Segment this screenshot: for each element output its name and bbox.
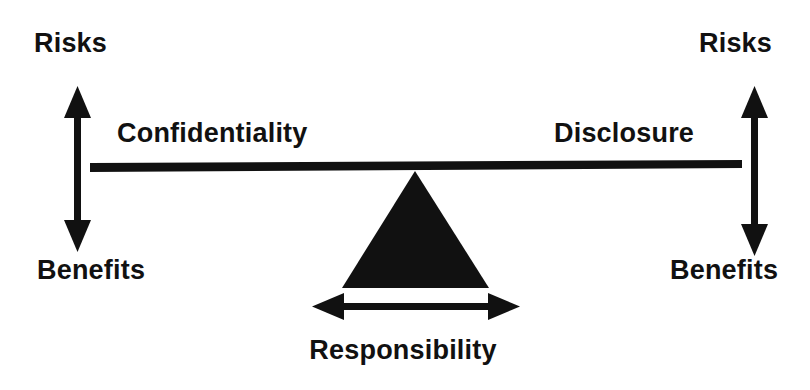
diagram-canvas: Risks Risks Confidentiality Disclosure B…: [0, 0, 810, 390]
balance-beam: [90, 160, 742, 172]
label-confidentiality: Confidentiality: [117, 120, 308, 147]
label-disclosure: Disclosure: [554, 120, 694, 147]
label-benefits-right: Benefits: [670, 257, 778, 284]
label-risks-right: Risks: [699, 30, 772, 57]
vertical-double-arrow-right: [741, 86, 768, 256]
balance-diagram-graphics: [0, 0, 810, 390]
vertical-double-arrow-left: [64, 86, 91, 252]
horizontal-double-arrow: [312, 293, 520, 320]
triangle-fulcrum: [342, 171, 489, 288]
label-benefits-left: Benefits: [37, 257, 145, 284]
label-risks-left: Risks: [34, 30, 107, 57]
label-responsibility: Responsibility: [309, 337, 496, 364]
